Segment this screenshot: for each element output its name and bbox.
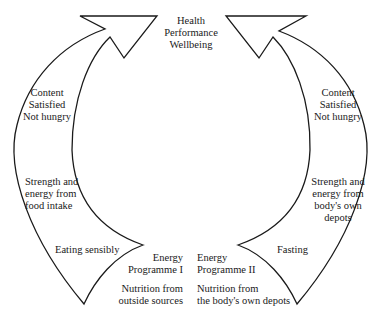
right-state-line: Not hungry <box>312 111 364 123</box>
right-source-line: Nutrition from <box>197 283 290 295</box>
left-source-label: Nutrition from outside sources <box>100 283 183 307</box>
left-energy-line: energy from <box>25 188 78 200</box>
outcome-health: Health <box>156 15 226 27</box>
left-state-line: Content <box>22 87 72 99</box>
outcome-label: Health Performance Wellbeing <box>156 15 226 51</box>
right-programme-line: Programme II <box>197 264 256 276</box>
right-energy-line: body's own <box>305 200 371 212</box>
right-programme-label: Energy Programme II <box>197 252 256 276</box>
left-source-line: outside sources <box>100 295 183 307</box>
left-programme-line: Programme I <box>110 264 183 276</box>
left-energy-label: Strength and energy from food intake <box>25 176 78 212</box>
outcome-performance: Performance <box>156 27 226 39</box>
right-energy-line: depots <box>305 212 371 224</box>
right-source-label: Nutrition from the body's own depots <box>197 283 290 307</box>
right-behaviour-label: Fasting <box>277 244 308 256</box>
fasting-text: Fasting <box>277 244 308 256</box>
right-energy-line: Strength and <box>305 176 371 188</box>
left-state-line: Satisfied <box>22 99 72 111</box>
right-energy-label: Strength and energy from body's own depo… <box>305 176 371 224</box>
left-state-label: Content Satisfied Not hungry <box>22 87 72 123</box>
right-energy-line: energy from <box>305 188 371 200</box>
left-energy-line: Strength and <box>25 176 78 188</box>
outcome-wellbeing: Wellbeing <box>156 39 226 51</box>
right-state-line: Content <box>312 87 364 99</box>
right-programme-line: Energy <box>197 252 256 264</box>
left-source-line: Nutrition from <box>100 283 183 295</box>
left-energy-line: food intake <box>25 200 78 212</box>
left-state-line: Not hungry <box>22 111 72 123</box>
right-source-line: the body's own depots <box>197 295 290 307</box>
right-state-line: Satisfied <box>312 99 364 111</box>
left-programme-line: Energy <box>110 252 183 264</box>
left-programme-label: Energy Programme I <box>110 252 183 276</box>
right-state-label: Content Satisfied Not hungry <box>312 87 364 123</box>
